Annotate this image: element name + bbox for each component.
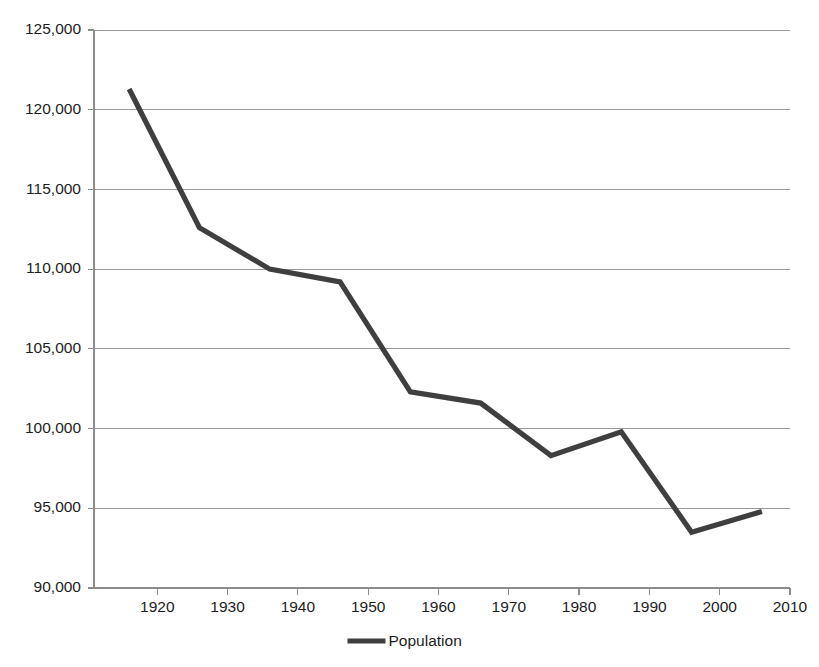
x-axis-tick-label: 1960 [421,598,456,615]
y-axis-tick-label: 125,000 [25,20,81,37]
axes-group [88,30,790,588]
x-axis-tick-label: 1990 [632,598,667,615]
x-axis-tick-label: 1980 [562,598,597,615]
x-axis-tick-label: 2000 [702,598,737,615]
data-series-group [129,89,762,532]
series-line-population [129,89,762,532]
population-line-chart: 90,00095,000100,000105,000110,000115,000… [0,0,819,667]
chart-canvas: 90,00095,000100,000105,000110,000115,000… [0,0,819,667]
y-axis-tick-label: 100,000 [25,419,81,436]
y-axis-tick-label: 120,000 [25,100,81,117]
y-axis-tick-labels: 90,00095,000100,000105,000110,000115,000… [25,20,81,595]
y-axis-tick-label: 90,000 [34,578,82,595]
x-axis-tick-label: 1940 [281,598,316,615]
y-axis-tick-label: 95,000 [34,498,82,515]
x-axis-tick-labels: 1920193019401950196019701980199020002010 [140,598,808,615]
x-axis-tick-label: 1970 [492,598,527,615]
x-axis-tick-label: 2010 [773,598,808,615]
y-axis-tick-label: 115,000 [26,180,81,197]
gridlines-group [94,30,790,508]
x-axis-tick-label: 1920 [140,598,175,615]
x-axis-tick-label: 1950 [351,598,386,615]
chart-legend: Population [348,632,462,649]
y-axis-tick-label: 105,000 [25,339,81,356]
legend-series-label: Population [389,632,462,649]
x-axis-tick-label: 1930 [210,598,245,615]
y-axis-tick-label: 110,000 [26,259,81,276]
x-tick-marks-group [157,588,790,595]
